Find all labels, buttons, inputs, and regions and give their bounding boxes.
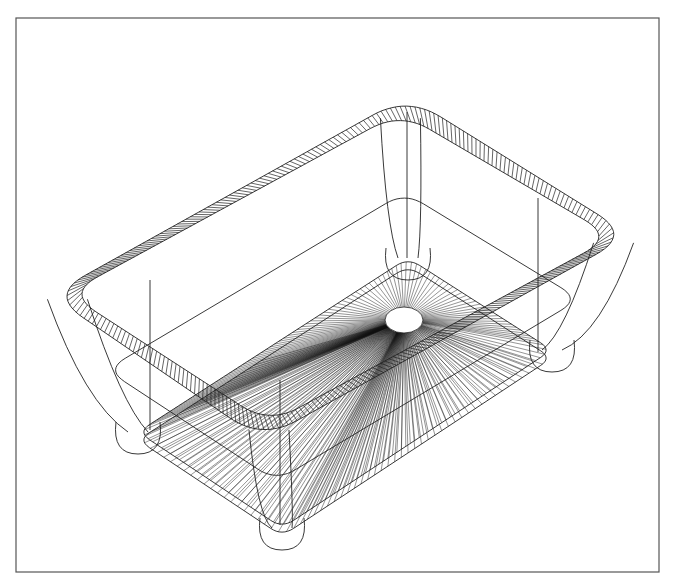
wall-curve-edge — [380, 118, 398, 258]
drain-hole — [385, 307, 423, 333]
basin-walls — [47, 112, 633, 550]
basin-drawing — [0, 0, 677, 587]
corner-foot — [385, 248, 430, 280]
rim-band — [67, 106, 614, 429]
rim-outer-edge — [67, 106, 614, 429]
wall-curve-edge — [542, 243, 594, 350]
bottom-plate-outline — [144, 262, 546, 524]
rim-hatching — [67, 106, 614, 429]
corner-foot — [259, 518, 304, 550]
wall-curve-edge — [87, 299, 148, 432]
wall-curve-edge — [418, 118, 421, 258]
corner-foot — [115, 422, 160, 454]
wall-curve-edge — [47, 299, 128, 432]
rim-inner-edge — [82, 121, 599, 416]
corner-foot — [529, 340, 574, 372]
drawing-frame — [16, 18, 659, 572]
